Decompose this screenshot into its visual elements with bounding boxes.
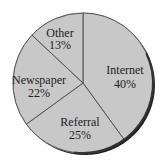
slice-label-internet-pct: 40% xyxy=(114,77,136,91)
slice-label-referral-name: Referral xyxy=(60,115,100,129)
slice-label-internet-name: Internet xyxy=(106,63,144,77)
slice-label-other: Other 13% xyxy=(46,26,73,52)
slice-label-newspaper-pct: 22% xyxy=(28,86,50,100)
slice-label-referral-pct: 25% xyxy=(69,128,91,142)
slice-label-newspaper-name: Newspaper xyxy=(12,73,66,87)
slice-label-other-pct: 13% xyxy=(49,38,71,52)
pie-chart: Internet 40% Referral 25% Newspaper 22% … xyxy=(0,0,166,164)
